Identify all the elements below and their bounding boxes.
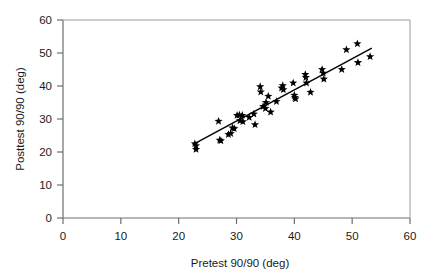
x-tick-label: 20	[172, 230, 185, 242]
y-tick-label: 0	[46, 212, 52, 224]
x-tick-label: 50	[346, 230, 359, 242]
x-tick-label: 0	[60, 230, 66, 242]
y-tick-label: 40	[39, 80, 52, 92]
x-axis-title: Pretest 90/90 (deg)	[191, 257, 290, 269]
y-tick-label: 30	[39, 113, 52, 125]
plot-canvas: 0102030405060 0102030405060 Pretest 90/9…	[0, 0, 440, 280]
y-tick-label: 10	[39, 179, 52, 191]
x-tick-label: 30	[230, 230, 243, 242]
scatter-plot-figure: 0102030405060 0102030405060 Pretest 90/9…	[0, 0, 440, 280]
x-tick-label: 10	[114, 230, 127, 242]
y-axis-title: Posttest 90/90 (deg)	[14, 67, 26, 171]
x-tick-label: 60	[404, 230, 417, 242]
y-tick-label: 20	[39, 146, 52, 158]
y-tick-label: 60	[39, 14, 52, 26]
y-tick-label: 50	[39, 47, 52, 59]
x-tick-label: 40	[288, 230, 301, 242]
